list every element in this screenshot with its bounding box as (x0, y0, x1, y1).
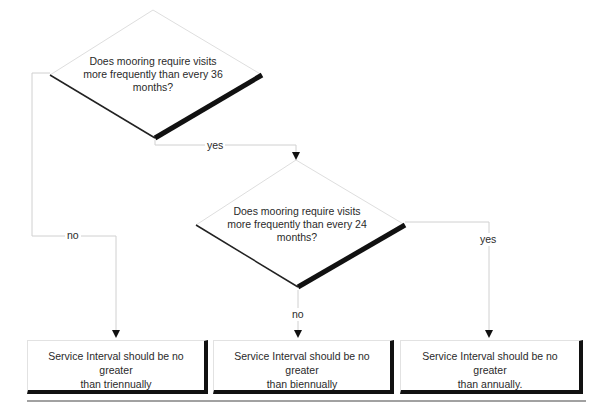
decision-line: Does mooring require visits (58, 55, 248, 68)
decision-line: more frequently than every 36 (58, 68, 248, 81)
outcome-box-biennially: Service Interval should be no greater th… (213, 340, 394, 394)
outcome-line: Service Interval should be no greater (32, 349, 200, 377)
outcome-text: Service Interval should be no greater th… (401, 349, 579, 391)
decision-text-36-months: Does mooring require visits more frequen… (58, 55, 248, 94)
outcome-box-annually: Service Interval should be no greater th… (400, 340, 583, 394)
edge-label-d2-yes: yes (478, 233, 498, 246)
outcome-line: than triennually (32, 377, 200, 391)
edge-label-d2-no: no (290, 308, 306, 321)
outcome-text: Service Interval should be no greater th… (28, 349, 204, 391)
outcome-line: Service Interval should be no greater (218, 349, 386, 377)
decision-line: Does mooring require visits (202, 205, 392, 218)
outcome-line: Service Interval should be no greater (405, 349, 575, 377)
outcome-text: Service Interval should be no greater th… (214, 349, 390, 391)
decision-line: more frequently than every 24 (202, 218, 392, 231)
decision-line: months? (58, 81, 248, 94)
connector-d1-no (32, 73, 120, 338)
decision-line: months? (202, 231, 392, 244)
edge-label-d1-no: no (65, 229, 81, 242)
edge-label-d1-yes: yes (205, 139, 225, 152)
decision-text-24-months: Does mooring require visits more frequen… (202, 205, 392, 244)
outcome-line: than annually. (405, 377, 575, 391)
outcome-line: than biennually (218, 377, 386, 391)
outcome-box-triennially: Service Interval should be no greater th… (27, 340, 208, 394)
connector-d1-yes (155, 140, 300, 160)
